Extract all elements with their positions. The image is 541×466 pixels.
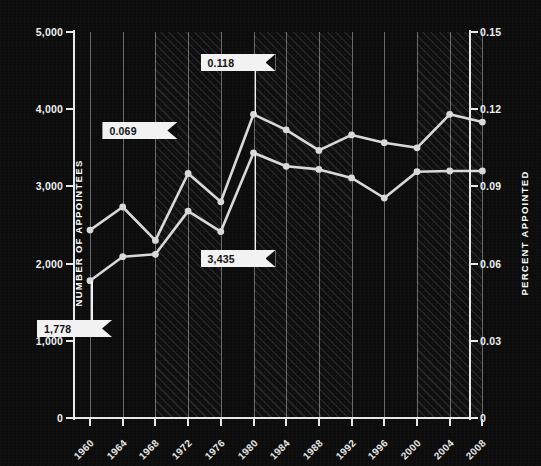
right-tick-0.09	[471, 185, 478, 187]
callout-leader-count-1960	[91, 281, 93, 320]
left-tick-label-0: 0	[57, 412, 63, 424]
left-axis-line	[73, 30, 75, 420]
data-point-number-of-appointees-2004	[446, 168, 453, 175]
data-point-number-of-appointees-1988	[316, 166, 323, 173]
right-tick-label-0.06: 0.06	[480, 258, 501, 270]
x-tick-1980	[253, 419, 255, 426]
x-tick-label-1964: 1964	[104, 437, 128, 461]
x-tick-1960	[89, 419, 91, 426]
left-tick-label-2000: 2,000	[36, 258, 63, 270]
left-tick-label-4000: 4,000	[36, 103, 63, 115]
callout-pct-1968: 0.069	[102, 122, 177, 139]
x-tick-label-2000: 2000	[399, 437, 423, 461]
x-tick-label-1992: 1992	[333, 437, 357, 461]
data-point-number-of-appointees-1972	[185, 208, 192, 215]
data-point-number-of-appointees-2000	[414, 168, 421, 175]
right-axis-title: PERCENT APPOINTED	[519, 170, 530, 295]
chart-figure: NUMBER OF APPOINTEES PERCENT APPOINTED 5…	[0, 0, 541, 466]
x-tick-1984	[285, 419, 287, 426]
data-point-percent-appointed-1964	[119, 204, 126, 211]
right-tick-label-0.15: 0.15	[480, 26, 501, 38]
right-tick-0.03	[471, 340, 478, 342]
right-tick-0.12	[471, 108, 478, 110]
data-point-percent-appointed-1988	[316, 147, 323, 154]
left-tick-4000	[66, 108, 73, 110]
x-tick-label-1968: 1968	[137, 437, 161, 461]
callout-leader-pct-1980	[255, 71, 257, 114]
x-tick-1964	[122, 419, 124, 426]
data-point-number-of-appointees-1984	[283, 163, 290, 170]
data-point-percent-appointed-2004	[446, 111, 453, 118]
x-tick-2000	[416, 419, 418, 426]
x-tick-1992	[351, 419, 353, 426]
gridline-2008	[482, 32, 483, 418]
x-tick-1976	[220, 419, 222, 426]
callout-count-1960: 1,778	[37, 320, 112, 337]
x-tick-label-1972: 1972	[170, 437, 194, 461]
left-tick-5000	[66, 31, 73, 33]
right-tick-0.06	[471, 263, 478, 265]
x-tick-label-1976: 1976	[202, 437, 226, 461]
data-point-number-of-appointees-1992	[348, 175, 355, 182]
data-point-percent-appointed-1972	[185, 170, 192, 177]
x-tick-1988	[318, 419, 320, 426]
line-number-of-appointees	[90, 153, 482, 281]
data-point-number-of-appointees-1976	[217, 228, 224, 235]
right-tick-label-0.03: 0.03	[480, 335, 501, 347]
bottom-axis-line	[73, 417, 471, 419]
right-tick-0	[471, 417, 478, 419]
x-tick-1972	[187, 419, 189, 426]
right-axis-line	[469, 30, 471, 420]
data-point-percent-appointed-1968	[152, 237, 159, 244]
plot-area	[73, 32, 469, 418]
right-tick-label-0.09: 0.09	[480, 180, 501, 192]
data-point-percent-appointed-2000	[414, 144, 421, 151]
left-tick-1000	[66, 340, 73, 342]
x-tick-2004	[449, 419, 451, 426]
x-tick-2008	[481, 419, 483, 426]
data-point-percent-appointed-1984	[283, 126, 290, 133]
left-tick-label-3000: 3,000	[36, 180, 63, 192]
x-tick-label-1980: 1980	[235, 437, 259, 461]
callout-count-1980: 3,435	[201, 250, 276, 267]
left-tick-2000	[66, 263, 73, 265]
left-tick-3000	[66, 185, 73, 187]
data-point-percent-appointed-1992	[348, 132, 355, 139]
data-point-percent-appointed-1996	[381, 139, 388, 146]
x-tick-1968	[154, 419, 156, 426]
data-point-number-of-appointees-2008	[479, 168, 486, 175]
x-tick-1996	[383, 419, 385, 426]
data-point-number-of-appointees-1964	[119, 253, 126, 260]
x-tick-label-2008: 2008	[464, 437, 488, 461]
data-point-percent-appointed-2008	[479, 119, 486, 126]
data-point-percent-appointed-1976	[217, 198, 224, 205]
left-tick-label-5000: 5,000	[36, 26, 63, 38]
x-tick-label-1984: 1984	[268, 437, 292, 461]
x-tick-label-2004: 2004	[431, 437, 455, 461]
data-point-number-of-appointees-1968	[152, 251, 159, 258]
left-tick-0	[66, 417, 73, 419]
x-tick-label-1960: 1960	[72, 437, 96, 461]
x-tick-label-1996: 1996	[366, 437, 390, 461]
callout-leader-count-1980	[255, 153, 257, 250]
series-lines	[73, 32, 469, 418]
data-point-number-of-appointees-1996	[381, 195, 388, 202]
data-point-percent-appointed-1960	[87, 227, 94, 234]
callout-pct-1980: 0.118	[201, 54, 276, 71]
right-tick-0.15	[471, 31, 478, 33]
right-tick-label-0.12: 0.12	[480, 103, 501, 115]
x-tick-label-1988: 1988	[301, 437, 325, 461]
